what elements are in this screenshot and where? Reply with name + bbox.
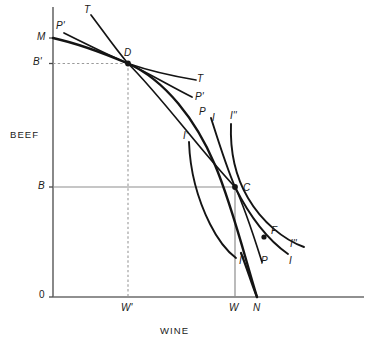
y-axis-label-M: M: [37, 32, 45, 42]
plot-canvas: [0, 0, 374, 346]
curve-label-I-top: I: [212, 113, 215, 123]
point-label-C: C: [243, 183, 250, 193]
curve-label-I-bottom: I: [289, 256, 292, 266]
curve-label-P-prime-right: P': [195, 92, 204, 102]
curve-I-double-prime: [231, 124, 304, 247]
point-marker-C: [232, 184, 238, 190]
x-axis-label-W-prime: W': [121, 303, 132, 313]
curve-label-I-prime-bottom: I': [239, 256, 244, 266]
economics-diagram: M B' B 0 BEEF WINE W' W N D C F T T P' P…: [0, 0, 374, 346]
curve-label-T-right: T: [197, 74, 203, 84]
point-label-D: D: [124, 48, 131, 58]
curve-label-P-top: P: [199, 107, 206, 117]
curve-label-I-double-prime-top: I'': [230, 111, 237, 121]
curve-label-I-prime-top: I': [183, 131, 188, 141]
curve-label-T-top: T: [84, 5, 90, 15]
point-marker-D: [125, 61, 131, 67]
point-marker-F: [261, 234, 266, 239]
curve-label-I-double-prime-bottom: I'': [290, 239, 297, 249]
y-axis-label-B: B: [38, 181, 45, 191]
curve-label-P-bottom: P: [261, 256, 268, 266]
point-label-F: F: [271, 226, 277, 236]
x-axis-title: WINE: [160, 325, 189, 336]
curve-T: [91, 15, 196, 80]
y-axis-title: BEEF: [10, 129, 39, 140]
origin-label: 0: [39, 290, 45, 300]
y-axis-label-B-prime: B': [33, 57, 42, 67]
curve-label-P-prime-top: P': [56, 21, 65, 31]
x-axis-label-W: W: [229, 303, 238, 313]
x-axis-label-N: N: [253, 303, 260, 313]
